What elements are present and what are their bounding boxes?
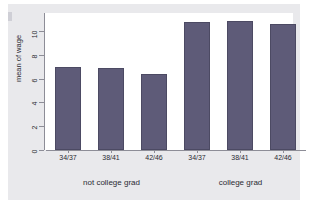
x-tick-label: 38/41 <box>94 154 128 161</box>
bar <box>55 67 81 150</box>
y-tick-6 <box>39 79 44 80</box>
y-tick-2 <box>39 126 44 127</box>
figure-background: 0246810 mean of wage 34/3738/4142/4634/3… <box>8 4 300 200</box>
bar <box>270 24 296 150</box>
y-tick-label: 2 <box>32 126 39 130</box>
x-tick <box>197 150 198 153</box>
y-tick-label-wrap: 10 <box>8 27 37 35</box>
y-tick-8 <box>39 55 44 56</box>
x-tick-label: 34/37 <box>180 154 214 161</box>
y-tick-label-wrap: 8 <box>8 51 37 59</box>
group-label: college grad <box>175 178 306 187</box>
x-tick-label: 38/41 <box>223 154 257 161</box>
y-tick-0 <box>39 150 44 151</box>
y-tick-label: 0 <box>32 150 39 154</box>
y-tick-label-wrap: 0 <box>8 146 37 154</box>
x-tick <box>283 150 284 153</box>
x-tick <box>154 150 155 153</box>
x-tick-label: 42/46 <box>266 154 300 161</box>
y-tick-10 <box>39 31 44 32</box>
bar <box>184 22 210 150</box>
scan-edge-artifact <box>8 12 12 21</box>
bar <box>227 21 253 150</box>
y-tick-label-wrap: 6 <box>8 75 37 83</box>
y-tick-label: 6 <box>32 78 39 82</box>
plot-panel <box>45 13 293 150</box>
bar <box>98 68 124 150</box>
y-tick-label: 8 <box>32 54 39 58</box>
y-axis-label: mean of wage <box>14 19 23 99</box>
group-label: not college grad <box>46 178 177 187</box>
x-tick <box>68 150 69 153</box>
y-tick-label: 4 <box>32 102 39 106</box>
x-tick <box>111 150 112 153</box>
x-tick-label: 34/37 <box>51 154 85 161</box>
y-axis-line <box>44 13 45 150</box>
y-tick-label-wrap: 2 <box>8 122 37 130</box>
y-tick-4 <box>39 102 44 103</box>
x-tick <box>240 150 241 153</box>
bar <box>141 74 167 150</box>
y-tick-label: 10 <box>32 30 39 38</box>
x-tick-label: 42/46 <box>137 154 171 161</box>
y-tick-label-wrap: 4 <box>8 98 37 106</box>
